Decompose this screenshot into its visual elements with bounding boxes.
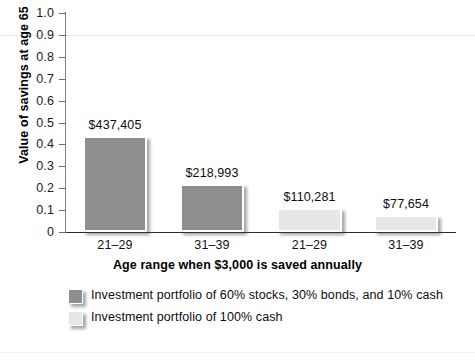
- x-axis-category-label: 21–29: [259, 238, 360, 252]
- x-axis-title: Age range when $3,000 is saved annually: [0, 258, 475, 272]
- y-axis-tick-label: 0.3: [0, 159, 54, 173]
- page-artifact-line-bottom: [0, 352, 475, 353]
- chart-legend: Investment portfolio of 60% stocks, 30% …: [68, 288, 468, 326]
- y-axis-tick-label: 0.9: [0, 28, 54, 42]
- y-axis-tick-mark: [59, 232, 66, 233]
- y-axis-tick-label: 0.6: [0, 94, 54, 108]
- bar[interactable]: [83, 136, 147, 232]
- legend-item[interactable]: Investment portfolio of 100% cash: [68, 310, 468, 326]
- x-axis-category-label: 31–39: [356, 238, 456, 252]
- y-axis-tick-mark: [59, 35, 66, 36]
- y-axis-tick-label: 1.0: [0, 6, 54, 20]
- legend-item-label: Investment portfolio of 100% cash: [91, 310, 283, 325]
- legend-item-label: Investment portfolio of 60% stocks, 30% …: [91, 288, 443, 303]
- y-axis-tick-mark: [59, 210, 66, 211]
- y-axis-tick-label: 0.4: [0, 137, 54, 151]
- bar[interactable]: [180, 184, 244, 232]
- y-axis-tick-mark: [59, 57, 66, 58]
- y-axis-tick-label: 0.1: [0, 203, 54, 217]
- y-axis-tick-mark: [59, 79, 66, 80]
- y-axis-tick-label: 0.2: [0, 181, 54, 195]
- bar-value-label: $77,654: [356, 197, 456, 211]
- bar[interactable]: [374, 215, 438, 232]
- bar-value-label: $437,405: [65, 118, 165, 132]
- y-axis-tick-mark: [59, 13, 66, 14]
- y-axis-tick-label: 0: [0, 225, 54, 239]
- gridline-0-9: [65, 35, 455, 36]
- bar-value-label: $110,281: [259, 190, 360, 204]
- x-axis-line: [65, 232, 456, 233]
- y-axis-tick-mark: [59, 166, 66, 167]
- y-axis-tick-mark: [59, 144, 66, 145]
- x-axis-category-label: 21–29: [65, 238, 165, 252]
- y-axis-tick-mark: [59, 188, 66, 189]
- bar-value-label: $218,993: [162, 166, 262, 180]
- y-axis-tick-label: 0.5: [0, 116, 54, 130]
- legend-swatch-icon: [68, 289, 83, 304]
- x-axis-category-label: 31–39: [162, 238, 262, 252]
- y-axis-tick-label: 0.8: [0, 50, 54, 64]
- bar[interactable]: [277, 208, 342, 232]
- legend-swatch-icon: [68, 311, 83, 326]
- y-axis-tick-mark: [59, 101, 66, 102]
- bar-chart-figure: Value of savings at age 65 1.00.90.80.70…: [0, 0, 475, 364]
- y-axis-tick-label: 0.7: [0, 72, 54, 86]
- legend-item[interactable]: Investment portfolio of 60% stocks, 30% …: [68, 288, 468, 304]
